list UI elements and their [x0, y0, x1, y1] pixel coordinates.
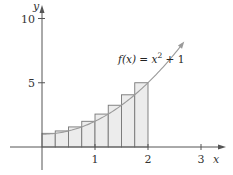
x-tick-label: 2	[145, 153, 152, 166]
riemann-sum-chart: y x f(x) = x2 + 1 123510	[0, 0, 233, 175]
function-label: f(x) = x2 + 1	[117, 51, 184, 65]
y-axis-label: y	[32, 0, 40, 13]
riemann-rectangles	[42, 83, 148, 147]
x-axis-label: x	[213, 153, 220, 166]
x-tick-label: 1	[92, 153, 99, 166]
riemann-rectangle	[108, 105, 121, 147]
function-label-suffix: + 1	[162, 53, 184, 65]
y-axis-arrow-icon	[40, 5, 45, 13]
riemann-rectangle	[42, 133, 55, 147]
riemann-rectangle	[82, 121, 95, 147]
function-label-prefix: f(x) = x	[117, 53, 157, 65]
riemann-rectangle	[122, 95, 135, 147]
x-tick-label: 3	[198, 153, 205, 166]
riemann-rectangle	[95, 114, 108, 147]
x-axis-arrow-icon	[218, 145, 226, 150]
y-tick-label: 5	[28, 77, 35, 90]
y-tick-label: 10	[21, 13, 35, 26]
